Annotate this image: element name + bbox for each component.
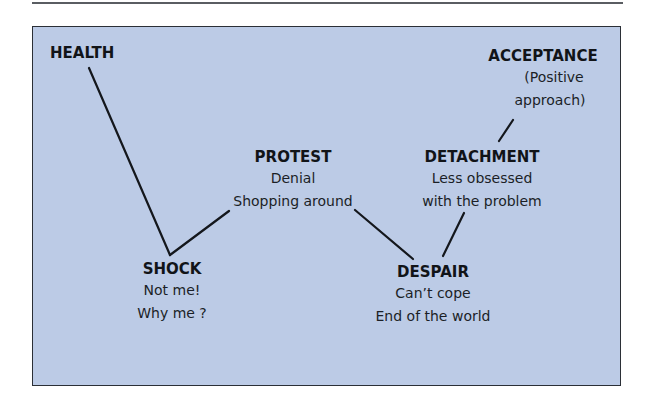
node-health: HEALTH bbox=[50, 43, 114, 63]
node-protest-title: PROTEST bbox=[233, 147, 352, 167]
node-despair-title: DESPAIR bbox=[376, 262, 491, 282]
node-despair-line-1: Can’t cope bbox=[376, 282, 491, 305]
node-shock-line-1: Not me! bbox=[137, 279, 207, 302]
node-protest-line-1: Denial bbox=[233, 167, 352, 190]
node-despair-line-2: End of the world bbox=[376, 305, 491, 328]
node-detachment-line-2: with the problem bbox=[422, 190, 542, 213]
node-protest-line-2: Shopping around bbox=[233, 190, 352, 213]
node-protest: PROTEST Denial Shopping around bbox=[233, 147, 352, 212]
node-despair: DESPAIR Can’t cope End of the world bbox=[376, 262, 491, 327]
edge-health-shock bbox=[89, 68, 170, 255]
node-shock-line-2: Why me ? bbox=[137, 302, 207, 325]
node-detachment-title: DETACHMENT bbox=[422, 147, 542, 167]
node-acceptance-line-2: approach) bbox=[488, 89, 597, 112]
node-acceptance-title: ACCEPTANCE bbox=[488, 46, 597, 66]
edge-despair-detachment bbox=[443, 213, 464, 256]
node-detachment-line-1: Less obsessed bbox=[422, 167, 542, 190]
edge-shock-protest bbox=[170, 211, 229, 255]
node-health-title: HEALTH bbox=[50, 43, 114, 63]
node-acceptance: ACCEPTANCE (Positive approach) bbox=[488, 46, 597, 111]
node-shock-title: SHOCK bbox=[137, 259, 207, 279]
edge-detachment-acceptance bbox=[499, 120, 513, 141]
edge-protest-despair bbox=[355, 210, 413, 259]
node-detachment: DETACHMENT Less obsessed with the proble… bbox=[422, 147, 542, 212]
node-acceptance-line-1: (Positive bbox=[488, 66, 597, 89]
node-shock: SHOCK Not me! Why me ? bbox=[137, 259, 207, 324]
